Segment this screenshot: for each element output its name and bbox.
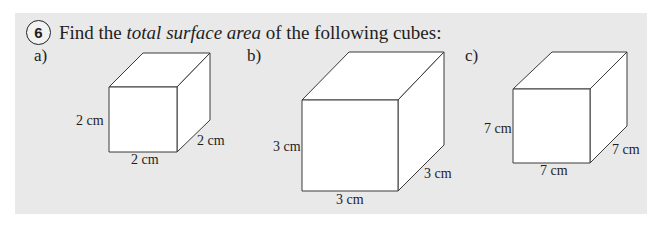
cube-b-front-face <box>302 100 398 191</box>
cube-b-width-label: 3 cm <box>336 192 364 207</box>
cube-figures: 2 cm 2 cm 2 cm 3 cm 3 cm 3 cm 7 cm 7 cm … <box>0 0 658 225</box>
cube-a <box>109 53 210 152</box>
cube-b-height-label: 3 cm <box>273 139 301 154</box>
cube-c-front-face <box>513 89 590 163</box>
cube-c-width-label: 7 cm <box>540 163 568 178</box>
cube-a-depth-label: 2 cm <box>197 133 225 148</box>
cube-c <box>513 52 627 163</box>
cube-a-width-label: 2 cm <box>131 152 159 167</box>
cube-b <box>302 52 444 191</box>
cube-a-height-label: 2 cm <box>76 113 104 128</box>
cube-c-depth-label: 7 cm <box>612 142 640 157</box>
cube-a-front-face <box>109 87 177 152</box>
cube-c-height-label: 7 cm <box>484 121 512 136</box>
cube-b-depth-label: 3 cm <box>424 166 452 181</box>
